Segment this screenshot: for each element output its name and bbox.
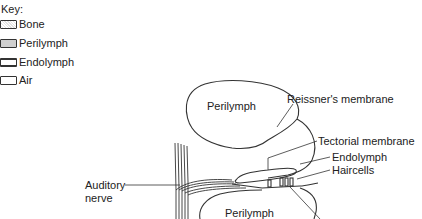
haircells-leader-line [297,170,330,179]
lower-perilymph-label: Perilymph [225,207,274,219]
reissners-membrane-label: Reissner's membrane [287,93,394,105]
scala-vestibuli-outline [186,81,298,149]
tectorial-leader-line [268,141,317,170]
upper-perilymph-label: Perilymph [207,100,256,112]
haircells-label: Haircells [332,164,374,176]
auditory-nerve-label-line1: Auditory [85,179,125,191]
auditory-nerve-label-line2: nerve [85,192,113,204]
tectorial-membrane-label: Tectorial membrane [318,135,415,147]
endolymph-label: Endolymph [332,151,387,163]
reissners-leader-line [277,104,293,127]
hair-cell [268,180,271,187]
hair-cell [285,178,288,186]
hair-cell [290,178,293,186]
endolymph-leader-line [300,157,330,164]
hair-cell [280,178,283,186]
